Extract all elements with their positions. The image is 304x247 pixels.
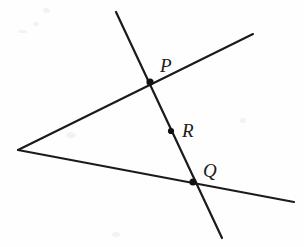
point-r-dot [168,128,174,134]
geometry-diagram: P R Q [0,0,304,247]
point-r-label: R [181,120,194,141]
point-p-dot [146,78,153,85]
lower-ray-line [18,150,294,202]
point-q-dot [189,178,196,185]
point-q-label: Q [203,160,217,181]
geometry-canvas: P R Q [0,0,304,247]
point-p-label: P [159,55,172,76]
transversal-line [116,12,222,238]
